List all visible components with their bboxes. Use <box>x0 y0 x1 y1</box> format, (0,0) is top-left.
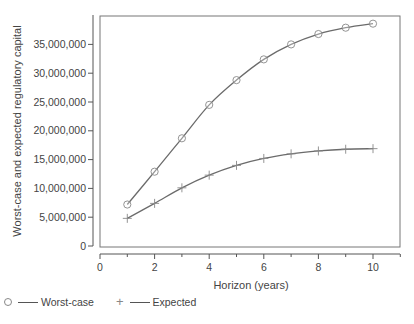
circle-marker-icon <box>206 101 213 108</box>
legend-line-icon <box>130 302 150 303</box>
x-tick-label: 0 <box>97 261 103 273</box>
plus-marker-icon <box>123 214 132 223</box>
legend-item-worst-case: Worst-case <box>4 296 94 308</box>
y-tick-label: 30,000,000 <box>33 67 86 79</box>
plus-marker-icon <box>369 144 378 153</box>
circle-marker-icon <box>233 77 240 84</box>
x-tick-label: 4 <box>206 261 212 273</box>
y-tick-label: 0 <box>80 240 86 252</box>
line-chart: 05,000,00010,000,00015,000,00020,000,000… <box>0 0 414 324</box>
legend-label-worst-case: Worst-case <box>41 296 94 308</box>
plus-marker-icon: + <box>116 297 124 307</box>
y-tick-label: 20,000,000 <box>33 124 86 136</box>
legend-line-icon <box>18 302 38 303</box>
plus-marker-icon <box>232 161 241 170</box>
plot-frame <box>100 16 400 247</box>
circle-marker-icon <box>178 135 185 142</box>
y-tick-label: 5,000,000 <box>39 211 86 223</box>
x-axis: 0246810 <box>97 254 400 273</box>
y-tick-label: 35,000,000 <box>33 38 86 50</box>
circle-marker-icon <box>4 298 12 306</box>
plus-marker-icon <box>259 154 268 163</box>
plus-marker-icon <box>314 146 323 155</box>
y-tick-label: 10,000,000 <box>33 182 86 194</box>
circle-marker-icon <box>260 56 267 63</box>
y-tick-label: 25,000,000 <box>33 96 86 108</box>
circle-marker-icon <box>124 201 131 208</box>
plus-marker-icon <box>287 149 296 158</box>
series-expected <box>123 144 378 223</box>
x-tick-label: 10 <box>367 261 379 273</box>
circle-marker-icon <box>315 30 322 37</box>
x-axis-label: Horizon (years) <box>213 279 288 291</box>
circle-marker-icon <box>369 20 376 27</box>
legend: Worst-case + Expected <box>4 296 218 308</box>
y-tick-label: 15,000,000 <box>33 153 86 165</box>
x-tick-label: 8 <box>315 261 321 273</box>
legend-item-expected: + Expected <box>116 296 196 308</box>
series-worst-case <box>124 20 377 208</box>
x-tick-label: 2 <box>152 261 158 273</box>
plus-marker-icon <box>150 199 159 208</box>
y-axis-label: Worst-case and expected regulatory capit… <box>11 25 23 236</box>
circle-marker-icon <box>342 24 349 31</box>
legend-label-expected: Expected <box>153 296 197 308</box>
plus-marker-icon <box>341 145 350 154</box>
circle-marker-icon <box>151 168 158 175</box>
x-tick-label: 6 <box>261 261 267 273</box>
plus-marker-icon <box>177 183 186 192</box>
series-group <box>123 20 378 223</box>
plus-marker-icon <box>205 171 214 180</box>
y-axis: 05,000,00010,000,00015,000,00020,000,000… <box>33 15 93 252</box>
circle-marker-icon <box>288 41 295 48</box>
